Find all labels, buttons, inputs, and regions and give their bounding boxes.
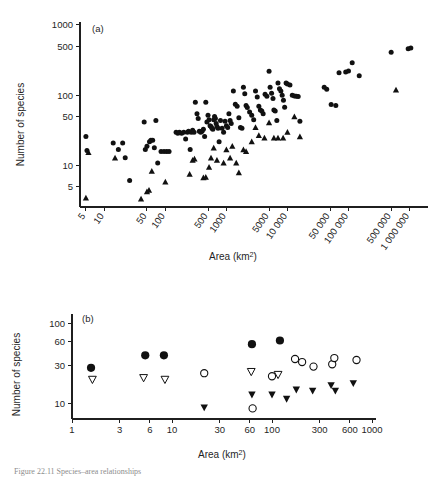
data-point-filled-circle: [280, 93, 285, 98]
data-point-filled-triangle: [206, 164, 212, 170]
data-point-filled-triangle: [187, 171, 193, 177]
x-axis-title-main: Area (km: [198, 449, 239, 460]
x-tick-label: 100: [264, 424, 280, 435]
x-axis-title-tail: ): [243, 449, 246, 460]
data-point-filled-circle: [193, 100, 198, 105]
data-point-filled-triangle-down: [283, 396, 290, 403]
data-point-filled-triangle: [162, 179, 168, 185]
series-open-circles: [201, 354, 360, 412]
x-tick-label: 10: [167, 424, 178, 435]
data-point-filled-triangle: [211, 145, 217, 151]
y-axis-title: Number of species: [11, 333, 22, 416]
data-point-filled-circle: [408, 46, 413, 51]
x-tick-label: 600: [342, 424, 358, 435]
data-point-filled-triangle: [138, 196, 144, 202]
data-point-filled-circle: [221, 130, 226, 135]
data-point-filled-circle: [264, 94, 269, 99]
x-axis-title: Area (km2): [198, 448, 246, 460]
data-point-filled-triangle: [227, 155, 233, 161]
data-point-filled-triangle: [266, 120, 272, 126]
data-point-filled-circle: [251, 117, 256, 122]
data-point-filled-circle: [141, 351, 149, 359]
data-point-filled-triangle-down: [293, 387, 300, 394]
series-filled-circles: [87, 336, 284, 371]
data-point-filled-triangle: [284, 129, 290, 135]
data-point-filled-circle: [235, 104, 240, 109]
data-point-filled-circle: [192, 130, 197, 135]
data-point-filled-circle: [245, 105, 250, 110]
x-tick-label: 5: [76, 211, 88, 222]
data-point-filled-triangle: [233, 160, 239, 166]
data-point-filled-circle: [111, 141, 116, 146]
data-point-filled-triangle-down: [248, 392, 255, 399]
data-point-filled-circle: [223, 119, 228, 124]
data-point-filled-circle: [202, 134, 207, 139]
data-point-filled-triangle: [83, 195, 89, 201]
data-point-filled-circle: [236, 115, 241, 120]
data-point-filled-circle: [196, 116, 201, 121]
data-point-open-triangle-down: [140, 375, 148, 382]
data-point-filled-circle: [217, 139, 222, 144]
data-point-filled-circle: [225, 125, 230, 130]
data-point-filled-triangle: [261, 135, 267, 141]
data-point-open-triangle-down: [247, 368, 255, 375]
data-point-filled-circle: [333, 103, 338, 108]
data-point-filled-circle: [249, 113, 254, 118]
x-tick-label: 1000: [361, 424, 382, 435]
data-point-filled-circle: [231, 89, 236, 94]
data-point-filled-circle: [229, 121, 234, 126]
data-point-open-circle: [353, 356, 360, 363]
data-point-filled-circle: [253, 89, 258, 94]
data-point-filled-triangle: [256, 132, 262, 138]
data-point-filled-circle: [296, 94, 301, 99]
data-point-filled-circle: [83, 134, 88, 139]
y-tick-label: 10: [54, 398, 65, 409]
data-point-filled-circle: [127, 178, 132, 183]
series-circles: [83, 46, 413, 183]
data-point-filled-circle: [203, 100, 208, 105]
data-point-filled-circle: [268, 85, 273, 90]
data-point-open-circle: [331, 354, 338, 361]
data-point-filled-circle: [242, 91, 247, 96]
data-point-filled-circle: [275, 80, 280, 85]
data-point-filled-circle: [274, 118, 279, 123]
data-point-filled-circle: [350, 60, 355, 65]
data-point-filled-triangle-down: [201, 404, 208, 411]
data-point-filled-triangle-down: [332, 388, 339, 395]
data-point-filled-triangle: [220, 160, 226, 166]
data-point-filled-triangle-down: [350, 380, 357, 387]
data-point-filled-circle: [269, 91, 274, 96]
x-tick-label: 100: [149, 211, 167, 230]
x-tick-label: 300: [312, 424, 328, 435]
y-tick-label: 500: [57, 41, 73, 52]
figure-caption-text: Figure 22.11 Species–area relationships: [14, 467, 141, 476]
x-axis-title-tail: ): [254, 251, 257, 262]
data-point-open-triangle-down: [89, 376, 97, 383]
data-point-filled-triangle: [249, 139, 255, 145]
panel-label: (b): [82, 313, 94, 324]
data-point-filled-circle: [357, 73, 362, 78]
data-point-open-triangle-down: [161, 376, 169, 383]
data-point-filled-circle: [210, 127, 215, 132]
data-point-filled-triangle: [149, 168, 155, 174]
data-point-filled-circle: [329, 102, 334, 107]
data-point-filled-circle: [120, 141, 125, 146]
data-point-filled-circle: [153, 118, 158, 123]
data-point-filled-circle: [282, 105, 287, 110]
data-point-filled-circle: [241, 85, 246, 90]
data-point-filled-triangle: [252, 124, 258, 130]
data-point-filled-circle: [239, 126, 244, 131]
data-point-filled-circle: [346, 68, 351, 73]
x-axis-title-main: Area (km: [209, 251, 250, 262]
data-point-filled-circle: [188, 147, 193, 152]
y-tick-label: 10: [62, 160, 73, 171]
y-tick-label: 30: [54, 360, 65, 371]
data-point-filled-circle: [206, 113, 211, 118]
y-tick-label: 1000: [52, 19, 73, 30]
data-point-filled-triangle: [280, 135, 286, 141]
figure-caption: Figure 22.11 Species–area relationships: [0, 464, 432, 478]
data-point-filled-triangle: [236, 170, 242, 176]
x-tick-label: 30: [214, 424, 225, 435]
panel-b-chart: 1030601001361030601003006001000Area (km2…: [0, 296, 432, 471]
